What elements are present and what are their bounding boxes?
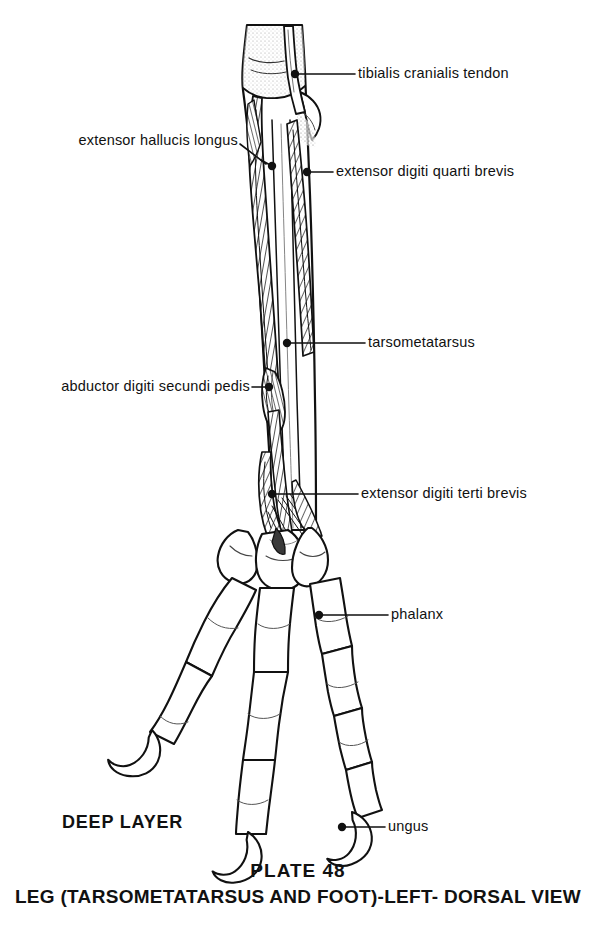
callout-label-tibialis-cranialis-tendon: tibialis cranialis tendon	[358, 66, 509, 81]
callout-label-extensor-digiti-quarti-brevis: extensor digiti quarti brevis	[336, 164, 514, 179]
dot-ungus	[338, 823, 346, 831]
dot-phalanx	[315, 611, 323, 619]
callout-label-ungus: ungus	[388, 819, 429, 834]
callout-label-extensor-hallucis-longus: extensor hallucis longus	[0, 133, 238, 148]
dot-abductor-digiti-secundi-pedis	[265, 383, 273, 391]
dot-tibialis-cranialis-tendon	[291, 70, 299, 78]
deep-layer-caption: DEEP LAYER	[62, 812, 183, 833]
plate-caption: LEG (TARSOMETATARSUS AND FOOT)-LEFT- DOR…	[0, 886, 596, 908]
toe-lateral	[310, 578, 382, 867]
callout-label-tarsometatarsus: tarsometatarsus	[368, 335, 475, 350]
dot-extensor-digiti-quarti-brevis	[303, 168, 311, 176]
anatomical-plate: tibialis cranialis tendon extensor hallu…	[0, 0, 596, 946]
toe-medial	[105, 578, 256, 786]
dot-extensor-hallucis-longus	[268, 162, 276, 170]
callout-label-extensor-digiti-terti-brevis: extensor digiti terti brevis	[361, 486, 527, 501]
callout-label-abductor-digiti-secundi-pedis: abductor digiti secundi pedis	[0, 379, 250, 394]
callout-label-phalanx: phalanx	[391, 607, 443, 622]
plate-number: PLATE 48	[0, 860, 596, 882]
dot-tarsometatarsus	[283, 339, 291, 347]
dot-extensor-digiti-terti-brevis	[268, 490, 276, 498]
